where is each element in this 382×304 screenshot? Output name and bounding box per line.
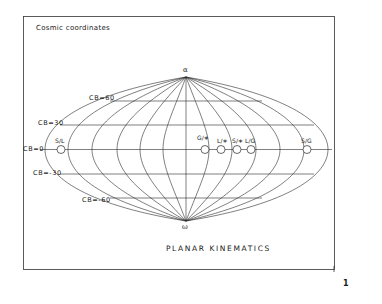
figure-frame: [24, 17, 335, 270]
pole-omega-label: ω: [182, 224, 188, 231]
point-circle-l-g: [247, 146, 255, 154]
page-number: 1: [343, 280, 349, 288]
point-label-s-g: S/G: [301, 138, 312, 144]
latitude-label-cb30: CB=30: [38, 120, 64, 127]
latitude-label-cb-60: CB=-60: [82, 197, 111, 204]
latitude-label-cb0: CB=0: [23, 146, 44, 153]
latitude-label-cb-30: CB=-30: [33, 170, 62, 177]
point-label-l-star: L/∗: [217, 138, 228, 144]
point-label-s-l: S/L: [55, 138, 64, 144]
figure-caption: PLANAR KINEMATICS: [166, 245, 271, 253]
point-label-l-g: L/G: [245, 138, 255, 144]
latitude-label-cb60: CB=60: [89, 95, 115, 102]
meridian-w3: [117, 77, 186, 221]
meridian-w6: [45, 77, 186, 221]
point-circle-s-star: [233, 146, 241, 154]
sinusoidal-projection-diagram: [0, 0, 382, 304]
point-circle-s-l: [57, 146, 65, 154]
point-circle-s-g: [303, 146, 311, 154]
point-label-s-star: S/∗: [232, 138, 243, 144]
point-circle-l-star: [217, 146, 225, 154]
point-circle-g-star: [201, 146, 209, 154]
figure-title: Cosmic coordinates: [36, 25, 110, 32]
pole-alpha-label: α: [183, 67, 188, 74]
point-label-g-star: G/∗: [197, 135, 209, 141]
